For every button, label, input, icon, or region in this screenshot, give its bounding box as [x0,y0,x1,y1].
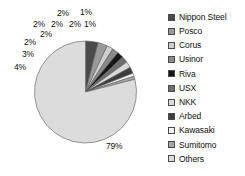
legend-item[interactable]: Nippon Steel [168,10,245,24]
legend-item-label: Kawasaki [179,126,215,135]
legend-item-label: Corus [179,41,201,50]
legend-item[interactable]: Sumitomo [168,138,245,152]
pie-slice-label: 2% [40,30,52,39]
legend-item[interactable]: NKK [168,95,245,109]
legend-item[interactable]: Posco [168,24,245,38]
legend-swatch-icon [168,113,175,120]
legend-swatch-icon [168,56,175,63]
legend-item[interactable]: USX [168,81,245,95]
pie-slice-label: 2% [51,20,63,29]
legend-swatch-icon [168,141,175,148]
legend-swatch-icon [168,99,175,106]
legend-item[interactable]: Riva [168,67,245,81]
pie-slice-label: 1% [84,20,96,29]
legend-item[interactable]: Arbed [168,109,245,123]
legend-swatch-icon [168,14,175,21]
legend-swatch-icon [168,42,175,49]
legend-item-label: USX [179,84,196,93]
pie-slice-label: 1% [80,8,92,17]
pie-slices [35,41,137,143]
legend-item-label: Arbed [179,112,201,121]
pie-plot-area: 2%1%2%2%2%1%2%2%3%4%79% [0,0,160,176]
pie-slice-label: 2% [69,20,81,29]
legend-item[interactable]: Usinor [168,53,245,67]
legend-item-label: Sumitomo [179,141,216,150]
pie-slice-label: 3% [22,50,34,59]
pie-slice-label: 79% [106,142,122,151]
legend-item-label: Usinor [179,55,203,64]
legend-swatch-icon [168,155,175,162]
chart-legend: Nippon SteelPoscoCorusUsinorRivaUSXNKKAr… [168,10,245,170]
legend-swatch-icon [168,28,175,35]
pie-chart-figure: 2%1%2%2%2%1%2%2%3%4%79% Nippon SteelPosc… [0,0,245,176]
pie-slice-label: 2% [57,9,69,18]
legend-item-label: NKK [179,98,196,107]
legend-item-label: Others [179,155,204,164]
pie-slice-label: 4% [14,63,26,72]
pie-slice-label: 2% [24,38,36,47]
pie-slice-label: 2% [33,20,45,29]
legend-item[interactable]: Kawasaki [168,124,245,138]
legend-swatch-icon [168,85,175,92]
legend-swatch-icon [168,127,175,134]
legend-item-label: Riva [179,70,196,79]
legend-item-label: Posco [179,27,202,36]
legend-swatch-icon [168,70,175,77]
legend-item[interactable]: Corus [168,38,245,52]
legend-item[interactable]: Others [168,152,245,166]
legend-item-label: Nippon Steel [179,13,226,22]
